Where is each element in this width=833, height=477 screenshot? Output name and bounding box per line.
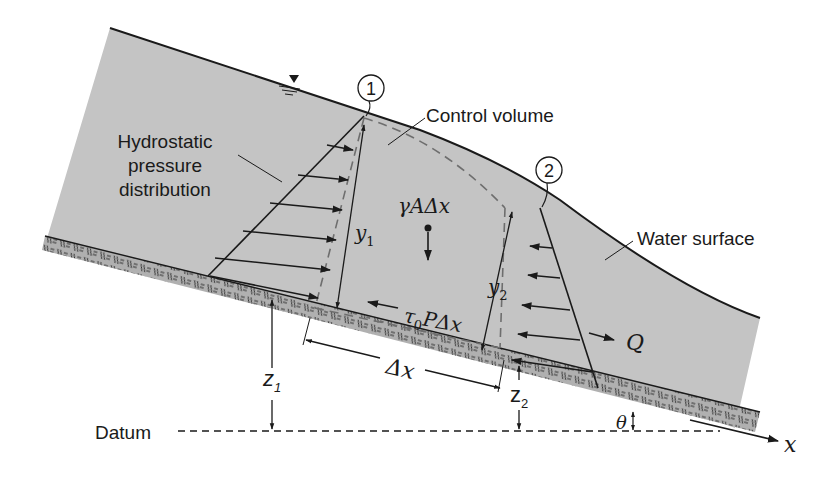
z2-label: z2	[510, 382, 528, 411]
flow-label: Q	[626, 330, 644, 355]
hydrostatic-label-line2: pressure	[128, 155, 202, 176]
z1-label: z1	[262, 366, 281, 395]
control-volume-label: Control volume	[426, 105, 554, 126]
open-channel-diagram: 1 2 y1 y2 γAΔx τ0PΔx Δx z1 z2 Datum x θ …	[0, 0, 833, 477]
theta-label: θ	[616, 412, 627, 433]
hydrostatic-label-line3: distribution	[119, 179, 211, 200]
dx-arrow-left	[306, 340, 380, 358]
x-axis-label: x	[784, 432, 797, 457]
water-surface-label: Water surface	[637, 228, 755, 249]
datum-label: Datum	[95, 422, 151, 443]
svg-text:2: 2	[544, 161, 554, 181]
hydrostatic-label-line1: Hydrostatic	[117, 131, 212, 152]
centroid-dot	[425, 225, 432, 232]
dx-label: Δx	[383, 353, 418, 384]
weight-label: γAΔx	[398, 194, 450, 218]
svg-text:1: 1	[366, 79, 376, 99]
dx-arrow-right	[425, 370, 500, 388]
